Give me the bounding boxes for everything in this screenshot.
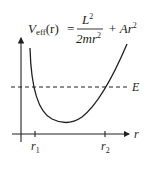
energy-label: E: [131, 80, 140, 94]
x-axis-label: r: [134, 127, 139, 141]
formula-equals: =: [67, 21, 74, 36]
effective-potential-diagram: Veff(r) = L2 2mr2 + Ar2 E r r1 r2: [0, 0, 149, 169]
tick-label-r2: r2: [101, 139, 110, 155]
tick-label-r1: r1: [31, 139, 40, 155]
formula-numerator: L2: [81, 12, 93, 27]
formula-plus-term: + Ar2: [108, 21, 137, 36]
formula-denominator: 2mr2: [76, 31, 101, 46]
potential-curve: [30, 44, 127, 123]
formula-lhs: Veff(r): [28, 21, 59, 37]
